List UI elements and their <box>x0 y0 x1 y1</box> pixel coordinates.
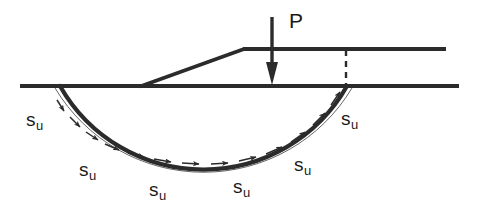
shear-strength-label-6: su <box>341 109 358 128</box>
shear-symbol: s <box>341 108 351 129</box>
shear-subscript: u <box>36 118 43 133</box>
shear-strength-label-1: su <box>26 110 43 129</box>
shear-subscript: u <box>304 163 311 178</box>
load-label-P: P <box>289 10 303 31</box>
shear-arrow <box>86 132 98 140</box>
shear-subscript: u <box>89 168 96 183</box>
shear-strength-label-3: su <box>149 180 166 199</box>
shear-symbol: s <box>233 176 243 197</box>
shear-strength-label-2: su <box>79 160 96 179</box>
shear-arrow <box>211 163 228 164</box>
embankment-slope-line <box>140 49 244 87</box>
slip-circle-figure: P su su su su su su <box>0 0 477 222</box>
shear-symbol: s <box>149 179 159 200</box>
shear-arrow <box>57 100 64 111</box>
shear-symbol: s <box>294 154 304 175</box>
shear-symbol: s <box>79 159 89 180</box>
shear-subscript: u <box>351 117 358 132</box>
shear-symbol: s <box>26 109 36 130</box>
load-arrow-head <box>266 62 278 85</box>
shear-strength-label-4: su <box>233 177 250 196</box>
shear-subscript: u <box>243 185 250 200</box>
shear-strength-label-5: su <box>294 155 311 174</box>
shear-arrow <box>182 163 199 164</box>
shear-subscript: u <box>159 188 166 203</box>
